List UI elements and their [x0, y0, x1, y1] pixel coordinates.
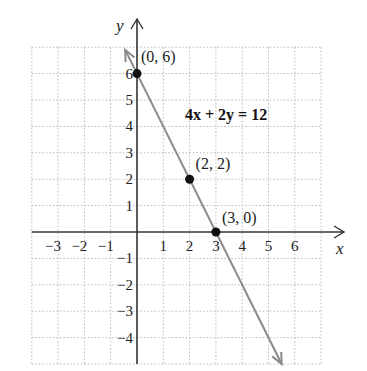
point-label: (3, 0)	[222, 209, 257, 227]
y-tick-label: −2	[117, 277, 133, 293]
x-tick-label: −2	[71, 238, 87, 254]
x-tick-label: 5	[265, 238, 273, 254]
x-tick-label: 3	[212, 238, 220, 254]
x-tick-label: 6	[291, 238, 299, 254]
point-label: (2, 2)	[196, 155, 231, 173]
x-tick-label: −1	[98, 238, 114, 254]
y-tick-label: −4	[117, 330, 133, 346]
y-tick-label: −1	[117, 250, 133, 266]
data-point	[185, 175, 194, 184]
y-tick-label: 5	[126, 92, 134, 108]
x-tick-label: 1	[160, 238, 168, 254]
y-tick-label: 3	[126, 145, 134, 161]
y-axis-label: y	[114, 16, 124, 35]
x-axis-label: x	[335, 239, 344, 258]
data-points: (0, 6)(2, 2)(3, 0)	[133, 48, 257, 237]
x-tick-label: −3	[45, 238, 61, 254]
plot-line	[125, 50, 281, 364]
equation-label: 4x + 2y = 12	[185, 106, 267, 124]
y-tick-label: 4	[126, 118, 134, 134]
grid	[32, 47, 321, 364]
y-tick-label: −3	[117, 303, 133, 319]
graph-line	[125, 50, 281, 364]
x-tick-label: 2	[186, 238, 194, 254]
data-point	[211, 228, 220, 237]
y-tick-label: 1	[126, 198, 134, 214]
data-point	[133, 69, 142, 78]
axes	[32, 19, 344, 364]
linear-equation-graph: −3−2−1123456654321−1−2−3−4 (0, 6)(2, 2)(…	[0, 0, 367, 371]
point-label: (0, 6)	[141, 48, 176, 66]
y-tick-label: 2	[126, 171, 134, 187]
y-tick-label: 6	[126, 66, 134, 82]
x-tick-label: 4	[238, 238, 246, 254]
